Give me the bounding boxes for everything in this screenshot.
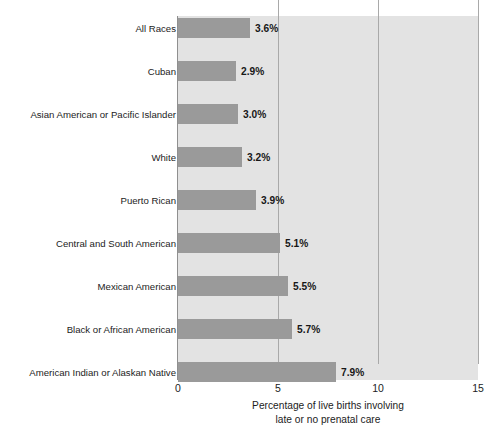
x-axis-title: Percentage of live births involving late… xyxy=(178,399,478,426)
bar-row: Asian American or Pacific Islander3.0% xyxy=(0,104,498,124)
bar-value-label: 2.9% xyxy=(241,66,264,77)
bar-row: Black or African American5.7% xyxy=(0,319,498,339)
gridline-5 xyxy=(278,0,279,364)
bar xyxy=(178,104,238,124)
category-label: Puerto Rican xyxy=(121,195,176,206)
x-tick-label-10: 10 xyxy=(372,382,384,394)
bar-row: White3.2% xyxy=(0,147,498,167)
bar xyxy=(178,319,292,339)
bar-row: All Races3.6% xyxy=(0,18,498,38)
x-tick-label-5: 5 xyxy=(275,382,281,394)
category-label: American Indian or Alaskan Native xyxy=(29,367,176,378)
bar xyxy=(178,276,288,296)
bar-value-label: 3.9% xyxy=(261,195,284,206)
x-tick-label-0: 0 xyxy=(175,382,181,394)
bar-row: Central and South American5.1% xyxy=(0,233,498,253)
bar-value-label: 3.0% xyxy=(243,109,266,120)
bar-value-label: 7.9% xyxy=(341,367,364,378)
bar-row: Cuban2.9% xyxy=(0,61,498,81)
bar-row: Mexican American5.5% xyxy=(0,276,498,296)
bar xyxy=(178,147,242,167)
bar xyxy=(178,18,250,38)
bar xyxy=(178,190,256,210)
category-label: Black or African American xyxy=(67,324,176,335)
x-axis-title-line-2: late or no prenatal care xyxy=(178,413,478,427)
category-label: Mexican American xyxy=(98,281,176,292)
x-axis-title-line-1: Percentage of live births involving xyxy=(178,399,478,413)
category-label: White xyxy=(151,152,176,163)
bar-row: American Indian or Alaskan Native7.9% xyxy=(0,362,498,382)
bar xyxy=(178,233,280,253)
category-label: Asian American or Pacific Islander xyxy=(30,109,176,120)
category-label: All Races xyxy=(135,23,176,34)
bar-value-label: 5.5% xyxy=(293,281,316,292)
bar-value-label: 5.7% xyxy=(297,324,320,335)
category-label: Cuban xyxy=(148,66,176,77)
bar xyxy=(178,61,236,81)
gridline-10 xyxy=(378,0,379,364)
bar-value-label: 3.2% xyxy=(247,152,270,163)
bar-row: Puerto Rican3.9% xyxy=(0,190,498,210)
bar-value-label: 3.6% xyxy=(255,23,278,34)
gridline-15 xyxy=(478,0,479,364)
bar xyxy=(178,362,336,382)
bar-value-label: 5.1% xyxy=(285,238,308,249)
x-tick-label-15: 15 xyxy=(472,382,484,394)
category-label: Central and South American xyxy=(56,238,176,249)
bar-chart: All Races3.6%Cuban2.9%Asian American or … xyxy=(0,0,498,427)
